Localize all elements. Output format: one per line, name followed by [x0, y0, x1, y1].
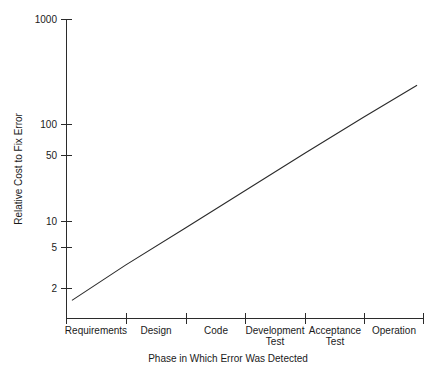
- x-label-code: Code: [204, 325, 228, 336]
- x-label-development-test-line2: Test: [266, 336, 285, 347]
- x-label-design: Design: [140, 325, 171, 336]
- chart-background: [0, 0, 448, 373]
- x-label-development-test-line1: Development: [246, 325, 305, 336]
- cost-to-fix-error-line-chart: 1000 100 50 10 5 2 Relative Cost to Fix …: [0, 0, 448, 373]
- y-tick-label-50: 50: [46, 150, 58, 161]
- x-label-operation: Operation: [372, 325, 416, 336]
- x-label-acceptance-test-line1: Acceptance: [309, 325, 362, 336]
- chart-container: 1000 100 50 10 5 2 Relative Cost to Fix …: [0, 0, 448, 373]
- y-tick-label-1000: 1000: [35, 14, 58, 25]
- x-axis-title: Phase in Which Error Was Detected: [148, 353, 308, 364]
- y-tick-label-2: 2: [51, 283, 57, 294]
- y-tick-label-10: 10: [46, 216, 58, 227]
- y-tick-label-5: 5: [51, 242, 57, 253]
- x-label-acceptance-test-line2: Test: [326, 336, 345, 347]
- x-label-requirements: Requirements: [65, 325, 127, 336]
- y-axis-title: Relative Cost to Fix Error: [13, 112, 24, 224]
- y-tick-label-100: 100: [40, 119, 57, 130]
